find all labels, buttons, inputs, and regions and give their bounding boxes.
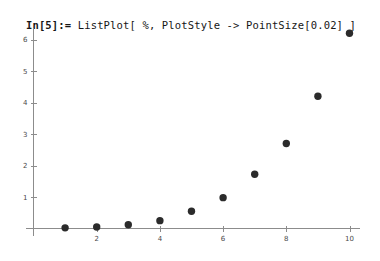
y-tick-label: 2 [23,162,27,170]
data-point [219,194,226,201]
y-tick-label: 6 [23,36,28,44]
x-tick-label: 6 [221,235,226,243]
data-point [188,207,195,214]
data-points-group [61,30,353,232]
y-tick-label: 4 [23,99,28,107]
y-tick-label: 3 [23,131,27,139]
axes-group [26,28,360,236]
data-point [125,221,132,228]
x-tick-label: 2 [94,235,98,243]
x-tick-label: 4 [158,235,163,243]
data-point [283,140,290,147]
data-point [156,217,163,224]
x-tick-label: 10 [345,235,354,243]
y-tick-label: 5 [23,68,27,76]
data-point [251,171,258,178]
x-tick-label: 8 [284,235,288,243]
y-tick-label: 1 [23,194,27,202]
data-point [61,224,68,231]
y-axis-ticks: 123456 [23,36,36,202]
data-point [346,30,353,37]
scatter-plot-svg: 123456 246810 [0,24,380,261]
data-point [93,223,100,230]
data-point [314,93,321,100]
list-plot-graphic[interactable]: 123456 246810 [0,24,380,261]
